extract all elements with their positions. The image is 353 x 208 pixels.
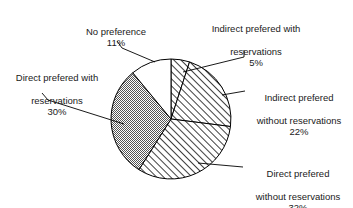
label-direct-with-line1: Direct prefered with bbox=[16, 72, 98, 83]
label-indirect-without-line2: without reservations bbox=[257, 115, 341, 126]
label-direct-without-percent: 32% bbox=[245, 202, 351, 208]
label-indirect-with-reservations: Indirect prefered with reservations 5% bbox=[180, 11, 332, 80]
label-indirect-with-line1: Indirect prefered with bbox=[212, 23, 301, 34]
label-no-preference-text: No preference bbox=[86, 26, 146, 37]
label-direct-without-line2: without reservations bbox=[256, 191, 340, 202]
label-indirect-without-reservations: Indirect prefered without reservations 2… bbox=[247, 80, 351, 149]
label-direct-with-reservations: Direct prefered with reservations 30% bbox=[2, 60, 112, 129]
label-indirect-without-percent: 22% bbox=[247, 126, 351, 138]
label-no-preference: No preference 11% bbox=[56, 14, 176, 60]
pie-chart-figure: No preference 11% Indirect prefered with… bbox=[0, 0, 353, 208]
label-direct-without-line1: Direct prefered bbox=[267, 168, 330, 179]
label-no-preference-percent: 11% bbox=[56, 37, 176, 49]
label-indirect-with-percent: 5% bbox=[180, 57, 332, 69]
label-direct-with-percent: 30% bbox=[2, 106, 112, 118]
label-direct-with-line2: reservations bbox=[31, 95, 83, 106]
label-indirect-without-line1: Indirect prefered bbox=[264, 92, 333, 103]
label-indirect-with-line2: reservations bbox=[230, 46, 282, 57]
label-direct-without-reservations: Direct prefered without reservations 32% bbox=[245, 156, 351, 208]
